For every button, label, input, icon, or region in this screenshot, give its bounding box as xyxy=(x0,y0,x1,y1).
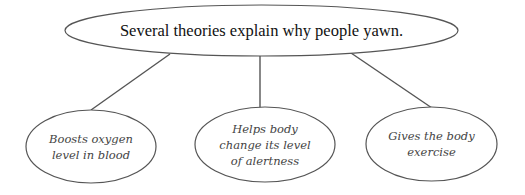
child-node-exercise-line-1: Gives the body xyxy=(388,128,474,144)
child-node-exercise-label: Gives the body exercise xyxy=(366,107,497,181)
root-node-label: Several theories explain why people yawn… xyxy=(65,5,458,56)
child-node-oxygen-label: Boosts oxygen level in blood xyxy=(26,110,156,183)
root-node-text: Several theories explain why people yawn… xyxy=(120,21,403,41)
connector-root-to-exercise xyxy=(351,53,432,108)
child-node-oxygen-line-2: level in blood xyxy=(52,147,130,163)
child-node-alertness-line-1: Helps body xyxy=(232,121,298,137)
child-node-exercise-line-2: exercise xyxy=(407,144,455,160)
child-node-alertness-label: Helps body change its level of alertness xyxy=(195,107,335,182)
child-node-alertness-line-2: change its level xyxy=(219,137,310,153)
child-node-alertness-line-3: of alertness xyxy=(231,153,299,169)
connector-root-to-oxygen xyxy=(91,54,170,110)
yawning-theories-diagram: Several theories explain why people yawn… xyxy=(0,0,525,195)
child-node-oxygen-line-1: Boosts oxygen xyxy=(49,131,133,147)
